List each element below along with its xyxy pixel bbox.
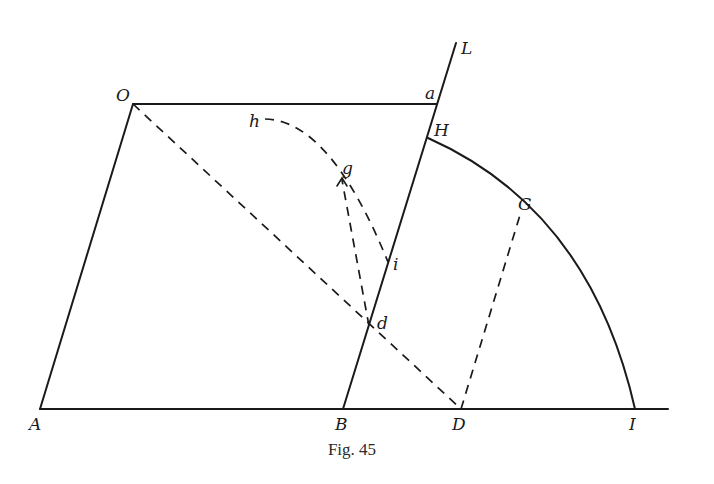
dashed-arc-h-g-i	[265, 119, 388, 262]
label-H: H	[433, 120, 450, 140]
dashed-O-D	[133, 104, 461, 409]
label-L: L	[460, 38, 472, 58]
label-O: O	[116, 85, 130, 105]
label-d: d	[377, 313, 388, 333]
label-g: g	[342, 158, 353, 178]
label-A: A	[27, 414, 41, 434]
label-D: D	[451, 414, 466, 434]
dashed-D-G	[461, 215, 520, 409]
label-a: a	[425, 83, 435, 103]
figure-caption: Fig. 45	[328, 440, 376, 459]
dashed-d-g	[342, 180, 369, 326]
label-I: I	[628, 414, 636, 434]
geometric-figure: O a L H h g G i d A B D I Fig. 45	[0, 0, 714, 484]
label-B: B	[334, 414, 348, 434]
line-B-L	[343, 43, 456, 409]
label-i: i	[393, 254, 398, 274]
arc-H-G-I	[428, 138, 635, 409]
label-G: G	[518, 194, 532, 214]
line-A-O	[40, 104, 133, 409]
label-h: h	[249, 111, 260, 131]
diagram-canvas: O a L H h g G i d A B D I Fig. 45	[0, 0, 714, 484]
